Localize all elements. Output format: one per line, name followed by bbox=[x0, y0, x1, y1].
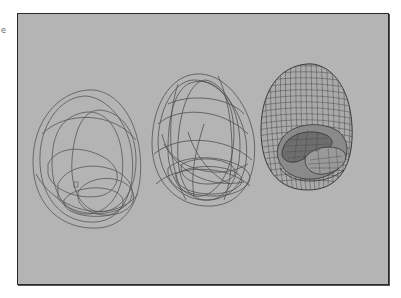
edge-mark-text: e bbox=[1, 26, 6, 35]
sparse-wireframe bbox=[33, 90, 141, 228]
figure-frame bbox=[17, 13, 389, 285]
medium-wireframe bbox=[152, 74, 255, 206]
wireframe-illustration bbox=[18, 14, 390, 286]
dense-mesh bbox=[258, 54, 358, 204]
